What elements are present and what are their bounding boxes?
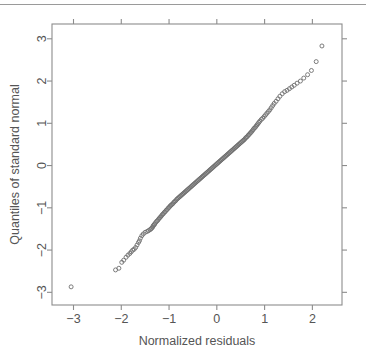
x-axis-tick-label: 1: [261, 312, 268, 326]
y-axis-tick-label: 3: [35, 35, 49, 42]
x-axis-title: Normalized residuals: [139, 334, 256, 348]
data-point: [302, 76, 306, 80]
y-axis-tick-label: 2: [35, 78, 49, 85]
data-point: [69, 285, 73, 289]
data-point-group: [69, 44, 324, 289]
data-point: [117, 266, 121, 270]
plot-canvas: −3−2−1012−3−2−10123Normalized residualsQ…: [0, 0, 366, 358]
x-axis-tick-label: 2: [309, 312, 316, 326]
x-axis-tick-label: −3: [66, 312, 80, 326]
x-axis-tick-label: −2: [114, 312, 128, 326]
y-axis-tick-label: −2: [35, 243, 49, 257]
y-axis-title: Quantiles of standard normal: [8, 84, 22, 245]
y-axis-tick-label: −3: [35, 285, 49, 299]
x-axis-tick-label: −1: [162, 312, 176, 326]
y-axis-tick-label: 0: [35, 162, 49, 169]
plot-frame: [52, 24, 342, 305]
data-point: [320, 44, 324, 48]
y-axis-tick-label: 1: [35, 120, 49, 127]
qq-plot-figure: −3−2−1012−3−2−10123Normalized residualsQ…: [0, 0, 366, 358]
data-point: [298, 79, 302, 83]
data-point: [306, 73, 310, 77]
data-point: [314, 60, 318, 64]
data-point: [309, 68, 313, 72]
x-axis-tick-label: 0: [213, 312, 220, 326]
y-axis-tick-label: −1: [35, 201, 49, 215]
